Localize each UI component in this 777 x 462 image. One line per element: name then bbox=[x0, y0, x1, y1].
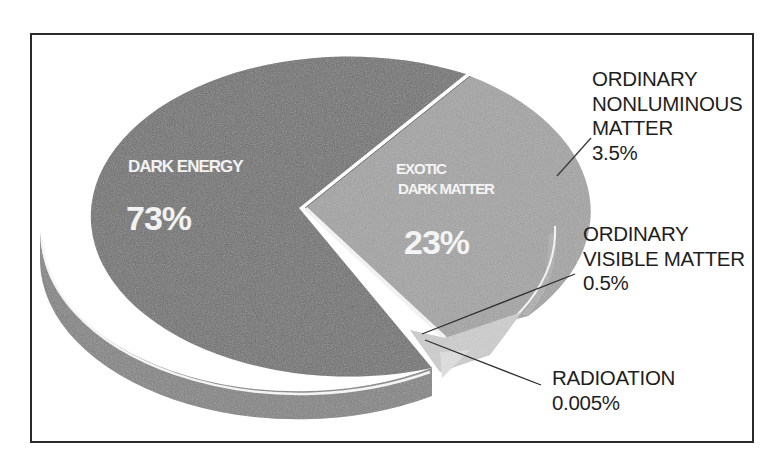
callout-visible: ORDINARY VISIBLE MATTER 0.5% bbox=[583, 222, 745, 296]
label-dark-energy: DARK ENERGY bbox=[128, 157, 244, 176]
pct-dark-matter: 23% bbox=[404, 223, 470, 261]
callout-nonluminous-line2: NONLUMINOUS bbox=[592, 92, 742, 117]
callout-radiation-pct: 0.005% bbox=[552, 391, 675, 416]
callout-nonluminous-line1: ORDINARY bbox=[592, 67, 742, 92]
pct-dark-energy: 73% bbox=[126, 199, 192, 237]
callout-visible-line2: VISIBLE MATTER bbox=[583, 247, 745, 272]
label-dark-matter-line1: EXOTIC bbox=[396, 160, 447, 177]
callout-nonluminous: ORDINARY NONLUMINOUS MATTER 3.5% bbox=[592, 67, 742, 165]
callout-nonluminous-line3: MATTER bbox=[592, 116, 742, 141]
callout-radiation: RADIOATION 0.005% bbox=[552, 366, 675, 415]
slice-radiation bbox=[440, 350, 470, 378]
callout-nonluminous-pct: 3.5% bbox=[592, 141, 742, 166]
callout-visible-pct: 0.5% bbox=[583, 271, 745, 296]
callout-visible-line1: ORDINARY bbox=[583, 222, 745, 247]
callout-radiation-line1: RADIOATION bbox=[552, 366, 675, 391]
label-dark-matter-line2: DARK MATTER bbox=[398, 180, 495, 197]
